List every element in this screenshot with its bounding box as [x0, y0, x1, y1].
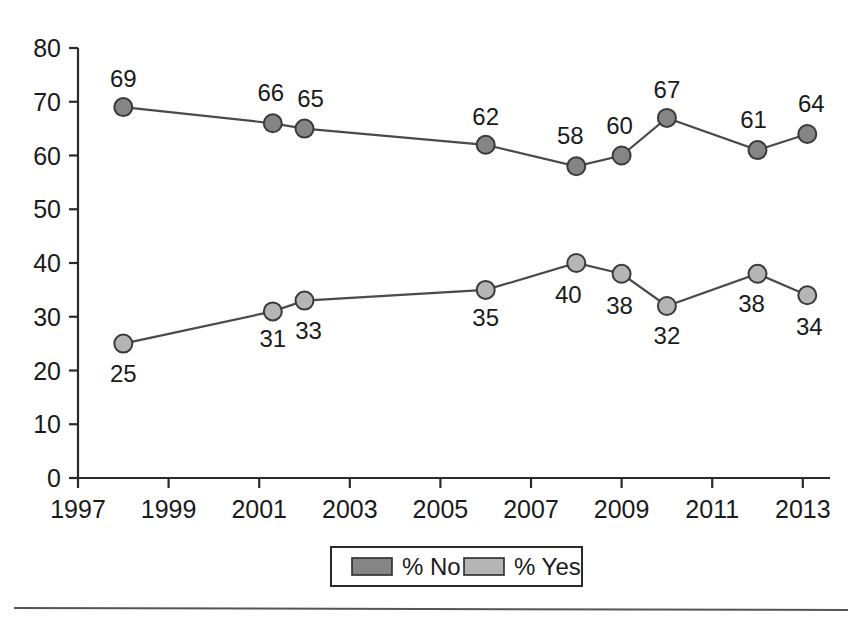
data-point-label: 58	[557, 122, 584, 149]
data-point-marker	[749, 265, 767, 283]
legend-label-1: % No	[402, 553, 461, 580]
series-lines	[123, 107, 807, 344]
y-axis: 80706050403020100	[33, 34, 78, 492]
y-tick-label: 60	[33, 142, 61, 170]
y-tick-label: 30	[33, 303, 61, 331]
data-point-label: 40	[555, 281, 582, 308]
data-point-marker	[264, 302, 282, 320]
data-point-marker	[798, 125, 816, 143]
footer-divider	[14, 608, 848, 610]
x-tick-label: 2009	[594, 495, 650, 523]
series-line-2	[123, 263, 807, 344]
data-point-label: 64	[798, 90, 825, 117]
data-point-marker	[658, 109, 676, 127]
x-tick-label: 2003	[322, 495, 378, 523]
y-tick-label: 50	[33, 195, 61, 223]
y-tick-label: 40	[33, 249, 61, 277]
y-tick-label: 80	[33, 34, 61, 62]
data-point-marker	[477, 281, 495, 299]
data-point-label: 35	[472, 304, 499, 331]
data-point-label: 34	[796, 313, 823, 340]
data-point-label: 32	[654, 322, 681, 349]
data-point-label: 67	[654, 76, 681, 103]
data-point-marker	[264, 114, 282, 132]
x-tick-label: 2001	[231, 495, 287, 523]
x-tick-label: 1999	[141, 495, 197, 523]
legend-label-2: % Yes	[514, 553, 581, 580]
y-tick-label: 0	[47, 464, 61, 492]
data-point-labels: 696665625860676164253133354038323834	[110, 65, 825, 387]
data-point-marker	[477, 136, 495, 154]
chart-container: 80706050403020100 1997199920012003200520…	[0, 0, 863, 628]
x-tick-label: 1997	[50, 495, 106, 523]
data-point-marker	[798, 286, 816, 304]
data-point-label: 31	[259, 325, 286, 352]
legend-swatch-2	[464, 558, 504, 575]
y-tick-label: 10	[33, 410, 61, 438]
data-point-label: 60	[606, 112, 633, 139]
data-point-label: 65	[297, 85, 324, 112]
data-point-marker	[114, 98, 132, 116]
y-tick-label: 70	[33, 88, 61, 116]
data-point-marker	[567, 254, 585, 272]
data-point-label: 38	[738, 290, 765, 317]
y-tick-label: 20	[33, 357, 61, 385]
legend-swatch-1	[352, 558, 392, 575]
series-markers	[114, 98, 816, 353]
x-tick-label: 2005	[413, 495, 469, 523]
data-point-label: 25	[110, 360, 137, 387]
data-point-marker	[296, 120, 314, 138]
data-point-label: 38	[606, 292, 633, 319]
data-point-marker	[613, 147, 631, 165]
data-point-label: 33	[295, 317, 322, 344]
data-point-marker	[658, 297, 676, 315]
line-chart: 80706050403020100 1997199920012003200520…	[0, 0, 863, 628]
data-point-marker	[567, 157, 585, 175]
x-tick-label: 2013	[775, 495, 831, 523]
x-tick-label: 2011	[685, 495, 739, 523]
x-tick-label: 2007	[503, 495, 559, 523]
data-point-label: 61	[740, 106, 767, 133]
data-point-label: 62	[472, 103, 499, 130]
x-axis: 199719992001200320052007200920112013	[50, 478, 830, 523]
chart-legend: % No% Yes	[331, 547, 582, 586]
data-point-marker	[613, 265, 631, 283]
data-point-marker	[749, 141, 767, 159]
data-point-label: 69	[110, 65, 137, 92]
data-point-marker	[296, 292, 314, 310]
data-point-marker	[114, 335, 132, 353]
series-line-1	[123, 107, 807, 166]
data-point-label: 66	[257, 79, 284, 106]
